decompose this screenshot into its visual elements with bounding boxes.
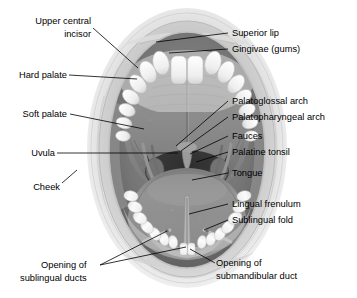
opening-sublingual-duct-right — [205, 229, 209, 233]
figure-oral-cavity: Upper central incisor Hard palate Soft p… — [0, 0, 357, 298]
label-cheek: Cheek — [33, 182, 60, 192]
label-palatopharyngeal-arch: Palatopharyngeal arch — [232, 112, 325, 122]
label-sublingual-fold: Sublingual fold — [232, 215, 293, 225]
label-lingual-frenulum: Lingual frenulum — [232, 199, 301, 209]
label-superior-lip: Superior lip — [232, 28, 279, 38]
upper-central-incisor-right — [188, 56, 204, 84]
label-opening-submandibular-duct-line2: submandibular duct — [216, 271, 298, 281]
label-opening-sublingual-ducts-line1: Opening of — [41, 260, 87, 270]
label-palatine-tonsil: Palatine tonsil — [232, 147, 290, 157]
label-upper-central-incisor-line2: incisor — [64, 29, 91, 39]
label-opening-sublingual-ducts-line2: sublingual ducts — [20, 273, 87, 283]
label-fauces: Fauces — [232, 131, 263, 141]
label-tongue: Tongue — [232, 168, 263, 178]
label-opening-submandibular-duct-line1: Opening of — [216, 258, 262, 268]
label-hard-palate: Hard palate — [19, 70, 67, 80]
label-gingivae: Gingivae (gums) — [232, 44, 300, 54]
label-soft-palate: Soft palate — [23, 109, 67, 119]
upper-central-incisor-left — [171, 56, 187, 84]
label-uvula: Uvula — [31, 148, 56, 158]
label-palatoglossal-arch: Palatoglossal arch — [232, 96, 308, 106]
oral-cavity-diagram: Upper central incisor Hard palate Soft p… — [0, 0, 357, 298]
label-upper-central-incisor-line1: Upper central — [35, 16, 91, 26]
leader-cheek — [62, 170, 77, 183]
